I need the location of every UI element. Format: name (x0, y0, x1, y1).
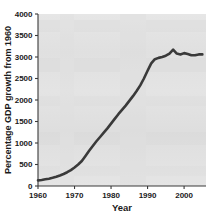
x-tick-label: 1970 (66, 191, 84, 200)
y-tick-label: 3000 (15, 53, 33, 62)
y-tick-label: 500 (19, 160, 33, 169)
gdp-growth-line-chart: 05001000150020002500300035004000 1960197… (0, 0, 212, 220)
x-tick-label: 2000 (175, 191, 193, 200)
y-tick-label: 2000 (15, 96, 33, 105)
y-axis-title: Percentage GDP growth from 1960 (3, 26, 13, 174)
y-tick-label: 1500 (15, 117, 33, 126)
y-tick-label: 3500 (15, 31, 33, 40)
y-tick-label: 1000 (15, 139, 33, 148)
x-tick-label: 1980 (102, 191, 120, 200)
chart-figure: 05001000150020002500300035004000 1960197… (0, 0, 212, 220)
x-tick-label: 1990 (139, 191, 157, 200)
y-tick-label: 2500 (15, 74, 33, 83)
y-tick-label: 0 (28, 182, 33, 191)
y-tick-label: 4000 (15, 10, 33, 19)
x-tick-label: 1960 (29, 191, 47, 200)
x-axis-title: Year (112, 202, 132, 213)
